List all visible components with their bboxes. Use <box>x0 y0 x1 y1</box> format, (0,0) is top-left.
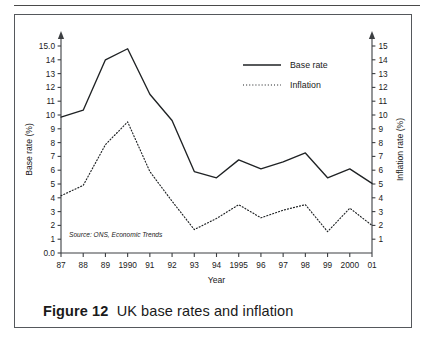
legend-label-base-rate: Base rate <box>290 60 328 70</box>
x-axis-tick-label: 88 <box>79 260 89 270</box>
right-axis-title: Inflation rate (%) <box>395 118 405 181</box>
x-axis-tick-label: 89 <box>101 260 111 270</box>
right-axis-tick-label: 3 <box>379 207 384 217</box>
left-axis-tick-label: 0.0 <box>43 248 55 258</box>
right-axis-tick-label: 12 <box>379 82 389 92</box>
x-axis: 878889199091929394199596979899200001Year <box>56 253 377 285</box>
series-line-inflation <box>61 122 372 232</box>
left-axis-tick-label: 11 <box>46 96 55 106</box>
figure-caption-text: UK base rates and inflation <box>117 303 294 319</box>
left-axis-tick-label: 15.0 <box>39 41 56 51</box>
figure-number: Figure 12 <box>43 303 108 319</box>
x-axis-tick-label: 94 <box>212 260 222 270</box>
right-axis-tick-label: 4 <box>379 193 384 203</box>
x-axis-tick-label: 87 <box>56 260 66 270</box>
left-axis-tick-label: 1 <box>50 234 55 244</box>
left-axis-tick-label: 13 <box>46 69 56 79</box>
right-axis-tick-label: 6 <box>379 165 384 175</box>
chart-annotations: Source: ONS, Economic Trends <box>69 231 163 238</box>
x-axis-tick-label: 2000 <box>341 260 360 270</box>
right-axis-tick-label: 7 <box>379 151 384 161</box>
x-axis-tick-label: 1990 <box>118 260 137 270</box>
x-axis-tick-label: 96 <box>256 260 266 270</box>
x-axis-tick-label: 98 <box>301 260 311 270</box>
right-axis-tick-label: 8 <box>379 138 384 148</box>
line-chart: 0.0123456789101112131415.0Base rate (%) … <box>15 15 413 287</box>
source-note: Source: ONS, Economic Trends <box>69 231 163 238</box>
left-axis-tick-label: 2 <box>50 220 55 230</box>
x-axis-tick-label: 91 <box>145 260 155 270</box>
top-rule-divider <box>14 5 420 6</box>
chart-plot-area: 0.0123456789101112131415.0Base rate (%) … <box>15 15 413 287</box>
left-axis-tick-label: 5 <box>50 179 55 189</box>
left-axis-tick-label: 7 <box>50 151 55 161</box>
chart-legend: Base rateInflation <box>243 60 328 90</box>
right-axis-tick-label: 10 <box>379 110 389 120</box>
x-axis-title: Year <box>208 275 226 285</box>
left-axis-title: Base rate (%) <box>24 123 34 176</box>
left-axis-tick-label: 3 <box>50 207 55 217</box>
figure-caption: Figure 12 UK base rates and inflation <box>43 303 293 319</box>
left-axis-tick-label: 9 <box>50 124 55 134</box>
left-axis-tick-label: 12 <box>46 82 56 92</box>
right-axis-tick-label: 13 <box>379 69 389 79</box>
x-axis-tick-label: 93 <box>190 260 200 270</box>
right-axis-tick-label: 9 <box>379 124 384 134</box>
right-axis-tick-label: 2 <box>379 220 384 230</box>
left-axis-tick-label: 6 <box>50 165 55 175</box>
x-axis-tick-label: 97 <box>279 260 289 270</box>
right-axis-tick-label: 14 <box>379 55 389 65</box>
x-axis-tick-label: 01 <box>367 260 377 270</box>
left-axis: 0.0123456789101112131415.0Base rate (%) <box>24 31 64 258</box>
legend-label-inflation: Inflation <box>290 80 321 90</box>
right-axis: 123456789101112131415Inflation rate (%) <box>369 31 405 253</box>
right-axis-tick-label: 5 <box>379 179 384 189</box>
figure-box: 0.0123456789101112131415.0Base rate (%) … <box>14 14 412 328</box>
x-axis-tick-label: 99 <box>323 260 333 270</box>
left-axis-tick-label: 14 <box>46 55 56 65</box>
right-axis-tick-label: 15 <box>379 41 389 51</box>
figure-page: 0.0123456789101112131415.0Base rate (%) … <box>0 0 434 344</box>
x-axis-tick-label: 92 <box>167 260 177 270</box>
right-axis-tick-label: 1 <box>379 234 384 244</box>
data-series <box>61 49 372 232</box>
left-axis-tick-label: 8 <box>50 138 55 148</box>
left-axis-tick-label: 10 <box>46 110 56 120</box>
x-axis-tick-label: 1995 <box>229 260 248 270</box>
left-axis-tick-label: 4 <box>50 193 55 203</box>
right-axis-tick-label: 11 <box>379 96 388 106</box>
